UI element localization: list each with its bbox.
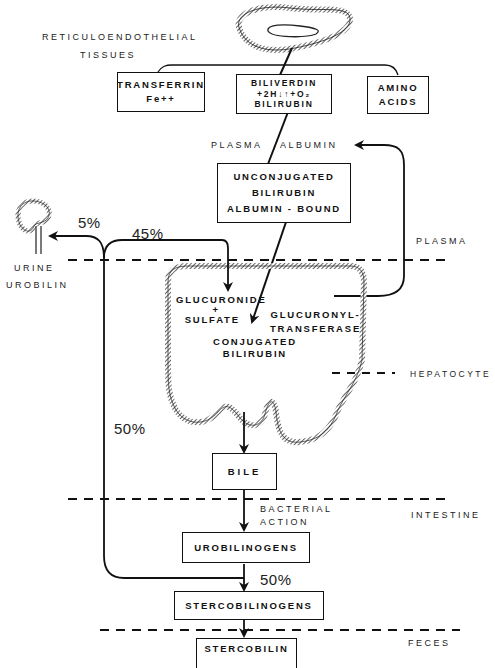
reduction-label: +2H↓↑+O₂ — [257, 89, 311, 100]
enterohepatic-percentage: 50% — [114, 420, 146, 437]
urine-excretion-arrow — [50, 236, 104, 258]
kidney-icon — [18, 201, 49, 254]
red-blood-cell-icon — [239, 7, 351, 50]
transferrin-label: TRANSFERRIN — [117, 78, 205, 92]
bile-box: BILE — [212, 453, 277, 490]
conjugated-bilirubin-label: CONJUGATED BILIRUBIN — [213, 336, 297, 360]
bilirubin-text: BILIRUBIN — [213, 348, 297, 360]
liver-percentage: 45% — [132, 225, 164, 242]
bacterial-action-label: BACTERIAL ACTION — [260, 503, 333, 528]
bacterial-text: BACTERIAL — [260, 503, 333, 516]
stercobilin-label: STERCOBILIN — [204, 642, 288, 656]
stercobilinogens-label: STERCOBILINOGENS — [185, 599, 313, 613]
bilirubin-label: BILIRUBIN — [254, 99, 313, 110]
acids-label: ACIDS — [379, 95, 418, 109]
biliverdin-to-albumin-line — [268, 112, 288, 164]
unconjugated-label: UNCONJUGATED — [233, 169, 334, 185]
sulfate-text: SULFATE — [176, 315, 267, 325]
albumin-bound-label: ALBUMIN - BOUND — [227, 201, 341, 217]
amino-label: AMINO — [378, 81, 419, 95]
unconjugated-bilirubin-box: UNCONJUGATED BILIRUBIN ALBUMIN - BOUND — [217, 163, 351, 223]
tissues-label: TISSUES — [80, 50, 136, 60]
conjugated-text: CONJUGATED — [213, 336, 297, 348]
bilirubin-label: BILIRUBIN — [252, 185, 316, 201]
plasma-albumin-left-label: PLASMA — [211, 140, 263, 150]
amino-acids-box: AMINO ACIDS — [367, 76, 429, 114]
stercobilinogens-box: STERCOBILINOGENS — [174, 591, 324, 620]
iron-label: Fe++ — [146, 92, 175, 106]
urine-label: URINE — [14, 263, 55, 273]
urobilinogens-box: UROBILINOGENS — [182, 532, 310, 563]
urobilin-label: UROBILIN — [6, 280, 69, 290]
transferase-text: TRANSFERASE — [270, 322, 361, 336]
intestine-compartment-label: INTESTINE — [411, 510, 481, 520]
glucuronide-text: GLUCURONIDE — [176, 295, 267, 305]
glucuronyl-transferase-label: GLUCURONYL- TRANSFERASE — [270, 308, 361, 337]
transferrin-box: TRANSFERRIN Fe++ — [117, 72, 205, 112]
feces-compartment-label: FECES — [408, 638, 451, 648]
hepatocyte-compartment-label: HEPATOCYTE — [410, 369, 491, 379]
action-text: ACTION — [260, 516, 333, 529]
reticuloendothelial-label: RETICULOENDOTHELIAL — [42, 32, 198, 42]
urobilinogens-label: UROBILINOGENS — [194, 541, 298, 555]
urine-percentage: 5% — [78, 214, 101, 231]
glucuronide-sulfate-label: GLUCURONIDE + SULFATE — [176, 295, 267, 325]
plasma-compartment-label: PLASMA — [416, 236, 468, 246]
plasma-albumin-right-label: ALBUMIN — [280, 140, 338, 150]
biliverdin-label: BILIVERDIN — [251, 78, 317, 89]
stercobilin-box: STERCOBILIN — [196, 638, 297, 668]
biliverdin-box: BILIVERDIN +2H↓↑+O₂ BILIRUBIN — [236, 74, 332, 114]
stool-percentage: 50% — [260, 571, 292, 588]
glucuronyl-text: GLUCURONYL- — [270, 308, 361, 322]
bile-label: BILE — [228, 465, 262, 479]
